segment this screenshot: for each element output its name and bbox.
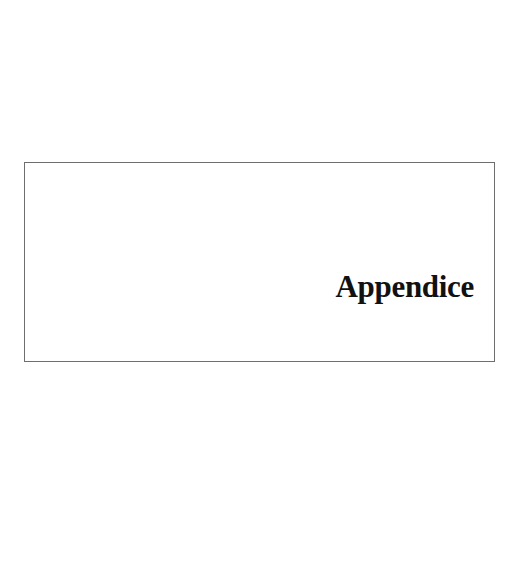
section-title: Appendice (335, 271, 474, 302)
section-title-box: Appendice (24, 162, 495, 362)
